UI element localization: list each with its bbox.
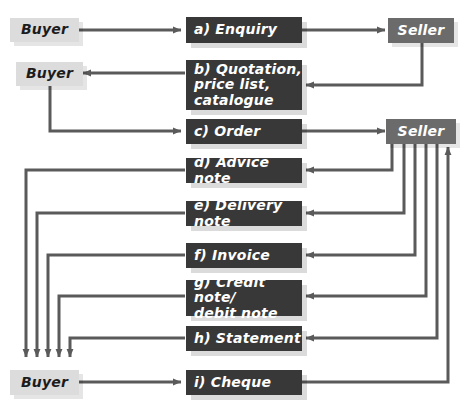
document-box-delivery-note[interactable]: e) Delivery note: [186, 201, 302, 226]
connector-buyer2-to-order: [50, 86, 181, 131]
document-box-cheque[interactable]: i) Cheque: [186, 370, 302, 395]
connector-seller2-to-credit-note: [306, 144, 426, 296]
connector-seller1-to-quotation: [306, 43, 422, 85]
connector-seller2-to-statement: [306, 144, 437, 338]
document-label-delivery-note: e) Delivery note: [194, 198, 302, 228]
document-label-credit-note: g) Credit note/ debit note: [194, 275, 302, 320]
seller-label-2: Seller: [386, 124, 456, 139]
seller-label-1: Seller: [388, 23, 454, 38]
connector-cheque-to-seller2: [302, 147, 448, 382]
connector-advice-note-to-buyer3: [26, 170, 185, 357]
connector-delivery-note-to-buyer3: [37, 213, 185, 357]
document-label-quotation: b) Quotation, price list, catalogue: [194, 62, 302, 107]
document-label-advice-note: d) Advice note: [194, 155, 302, 185]
buyer-box-2[interactable]: Buyer: [16, 62, 83, 86]
seller-box-1[interactable]: Seller: [388, 18, 454, 43]
buyer-box-3[interactable]: Buyer: [10, 370, 79, 395]
document-box-order[interactable]: c) Order: [186, 119, 302, 144]
document-box-quotation[interactable]: b) Quotation, price list, catalogue: [186, 60, 302, 110]
document-box-advice-note[interactable]: d) Advice note: [186, 158, 302, 183]
connector-seller2-to-delivery-note: [306, 144, 404, 213]
buyer-label-3: Buyer: [10, 375, 79, 390]
document-label-invoice: f) Invoice: [194, 248, 302, 263]
document-label-order: c) Order: [194, 124, 302, 139]
buyer-box-1[interactable]: Buyer: [10, 18, 79, 42]
connector-credit-note-to-buyer3: [59, 296, 185, 357]
connector-seller2-to-advice-note: [306, 144, 392, 170]
connector-invoice-to-buyer3: [48, 255, 185, 357]
document-box-enquiry[interactable]: a) Enquiry: [186, 17, 302, 43]
document-box-invoice[interactable]: f) Invoice: [186, 243, 302, 268]
document-flow-diagram: Buyer Buyer Buyer Seller Seller a) Enqui…: [0, 0, 476, 413]
document-label-enquiry: a) Enquiry: [194, 22, 302, 37]
document-label-cheque: i) Cheque: [194, 375, 302, 390]
connector-statement-to-buyer3: [70, 338, 185, 357]
document-box-credit-note[interactable]: g) Credit note/ debit note: [186, 280, 302, 316]
document-box-statement[interactable]: h) Statement: [186, 326, 302, 351]
seller-box-2[interactable]: Seller: [386, 119, 456, 144]
document-label-statement: h) Statement: [194, 331, 302, 346]
connector-seller2-to-invoice: [306, 144, 415, 255]
buyer-label-1: Buyer: [10, 22, 79, 37]
buyer-label-2: Buyer: [16, 66, 83, 81]
